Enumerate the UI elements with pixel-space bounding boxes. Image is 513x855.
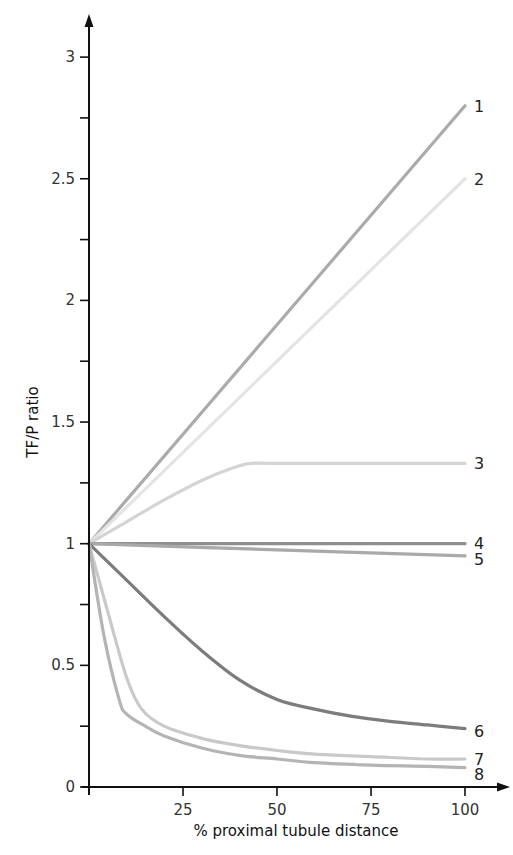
y-tick-label: 0.5 [51, 656, 75, 674]
series-label-1: 1 [474, 97, 484, 116]
y-axis-ticks: 00.511.522.53 [51, 48, 89, 796]
series-line-5 [89, 544, 465, 556]
x-tick-label: 25 [173, 801, 192, 819]
series-label-8: 8 [474, 765, 484, 784]
series-line-3 [89, 463, 465, 544]
x-axis-title: % proximal tubule distance [193, 822, 398, 840]
series-line-1 [89, 106, 465, 544]
y-tick-label: 0 [65, 778, 75, 796]
line-chart: 00.511.522.53 255075100 TF/P ratio % pro… [0, 0, 513, 855]
x-tick-label: 100 [451, 801, 480, 819]
x-tick-label: 50 [267, 801, 286, 819]
y-tick-label: 1 [65, 535, 75, 553]
y-tick-label: 2.5 [51, 170, 75, 188]
y-tick-label: 1.5 [51, 413, 75, 431]
series-line-6 [89, 544, 465, 729]
series-label-6: 6 [474, 722, 484, 741]
series-lines [89, 106, 465, 768]
series-line-2 [89, 179, 465, 544]
series-label-2: 2 [474, 170, 484, 189]
series-labels: 12345678 [474, 97, 484, 784]
series-line-8 [89, 544, 465, 768]
series-label-3: 3 [474, 454, 484, 473]
y-tick-label: 3 [65, 48, 75, 66]
y-axis-title: TF/P ratio [24, 386, 42, 458]
x-axis-arrow-icon [497, 783, 510, 792]
series-label-5: 5 [474, 550, 484, 569]
y-axis-arrow-icon [85, 14, 94, 27]
y-tick-label: 2 [65, 291, 75, 309]
x-axis-ticks: 255075100 [173, 787, 479, 819]
x-tick-label: 75 [361, 801, 380, 819]
